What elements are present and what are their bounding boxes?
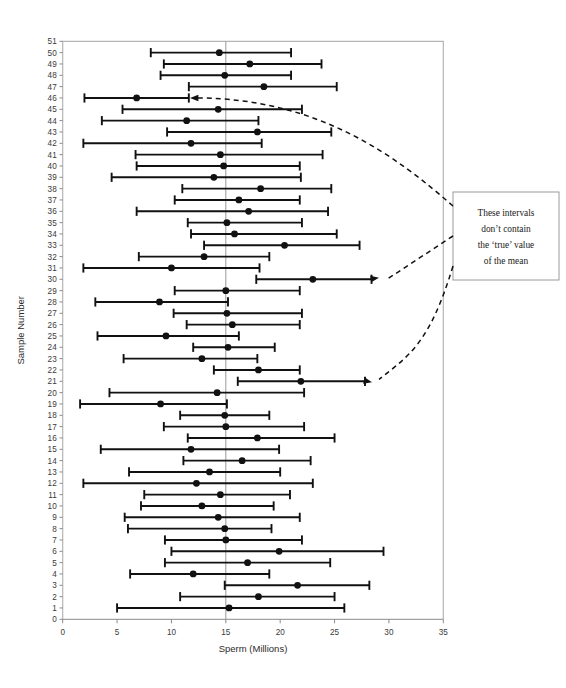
sample-mean-dot	[257, 185, 264, 192]
confidence-interval-row	[117, 603, 344, 612]
annotation-arrowhead	[190, 95, 198, 102]
y-tick-label-0: 0	[52, 615, 57, 624]
confidence-interval-row	[97, 331, 238, 340]
confidence-interval-row	[225, 581, 370, 590]
y-tick-label-47: 47	[48, 83, 58, 92]
y-tick-label-13: 13	[48, 468, 58, 477]
sample-mean-dot	[188, 446, 195, 453]
plot-frame	[63, 41, 444, 619]
sample-mean-dot	[239, 457, 246, 464]
sample-mean-dot	[244, 559, 251, 566]
annotation-box	[453, 192, 559, 280]
y-tick-label-19: 19	[48, 400, 58, 409]
y-tick-label-20: 20	[48, 389, 58, 398]
confidence-interval-row	[80, 399, 227, 408]
sample-mean-dot	[221, 525, 228, 532]
y-axis-title: Sample Number	[15, 296, 26, 365]
x-tick-label-0: 0	[60, 628, 65, 637]
chart-canvas: 0123456789101112131415161718192021222324…	[0, 0, 566, 688]
sample-mean-dot	[224, 310, 231, 317]
y-tick-label-34: 34	[48, 230, 58, 239]
y-tick-label-29: 29	[48, 287, 58, 296]
sample-mean-dot	[255, 367, 262, 374]
x-tick-label-25: 25	[330, 628, 340, 637]
y-tick-label-38: 38	[48, 185, 58, 194]
confidence-interval-row	[136, 150, 323, 159]
sample-mean-dot	[168, 265, 175, 272]
y-tick-label-49: 49	[48, 60, 58, 69]
y-tick-label-11: 11	[48, 491, 57, 500]
x-tick-label-30: 30	[384, 628, 394, 637]
confidence-interval-row	[161, 71, 291, 80]
y-tick-label-3: 3	[52, 581, 57, 590]
confidence-interval-row	[164, 59, 322, 68]
y-tick-label-30: 30	[48, 275, 58, 284]
confidence-interval-row	[101, 445, 279, 454]
confidence-interval-row	[128, 524, 272, 533]
y-tick-label-14: 14	[48, 457, 58, 466]
confidence-interval-row	[95, 297, 228, 306]
annotation-line-0: These intervals	[477, 208, 534, 218]
sample-mean-dot	[214, 389, 221, 396]
y-tick-label-4: 4	[52, 570, 57, 579]
sample-mean-dot	[215, 106, 222, 113]
y-tick-label-43: 43	[48, 128, 58, 137]
sample-mean-dot	[198, 355, 205, 362]
x-tick-label-10: 10	[167, 628, 177, 637]
y-tick-label-44: 44	[48, 117, 58, 126]
y-tick-label-23: 23	[48, 355, 58, 364]
confidence-interval-row	[174, 309, 302, 318]
sample-mean-dot	[224, 219, 231, 226]
confidence-interval-row	[180, 411, 269, 420]
confidence-interval-row	[83, 263, 259, 272]
confidence-interval-row	[109, 388, 304, 397]
y-tick-label-36: 36	[48, 207, 58, 216]
sample-mean-dot	[198, 503, 205, 510]
sample-mean-dot	[210, 174, 217, 181]
sample-mean-dot	[297, 378, 304, 385]
sample-mean-dot	[193, 480, 200, 487]
sample-mean-dot	[255, 593, 262, 600]
y-tick-label-32: 32	[48, 253, 58, 262]
sample-mean-dot	[217, 491, 224, 498]
y-tick-label-8: 8	[52, 525, 57, 534]
confidence-interval-row	[112, 173, 301, 182]
y-tick-label-2: 2	[52, 593, 57, 602]
y-tick-label-7: 7	[52, 536, 57, 545]
y-tick-label-48: 48	[48, 71, 58, 80]
confidence-interval-row	[164, 422, 304, 431]
confidence-interval-row	[141, 501, 274, 510]
sample-mean-dot	[133, 95, 140, 102]
y-tick-label-33: 33	[48, 241, 58, 250]
confidence-interval-row	[182, 184, 331, 193]
y-tick-label-18: 18	[48, 411, 58, 420]
y-tick-label-39: 39	[48, 173, 58, 182]
confidence-interval-row	[187, 320, 300, 329]
confidence-interval-row	[165, 535, 302, 544]
y-tick-label-9: 9	[52, 513, 57, 522]
confidence-interval-row	[83, 479, 312, 488]
confidence-interval-row	[188, 218, 302, 227]
sample-mean-dot	[221, 72, 228, 79]
y-tick-label-17: 17	[48, 423, 58, 432]
confidence-interval-row	[144, 490, 290, 499]
confidence-interval-row	[256, 275, 371, 284]
sample-mean-dot	[190, 571, 197, 578]
sample-mean-dot	[231, 231, 238, 238]
confidence-interval-row	[129, 467, 280, 476]
confidence-interval-row	[84, 93, 188, 102]
y-tick-label-37: 37	[48, 196, 58, 205]
y-tick-label-35: 35	[48, 219, 58, 228]
sample-mean-dot	[226, 605, 233, 612]
sample-mean-dot	[206, 469, 213, 476]
confidence-interval-row	[151, 48, 291, 57]
y-tick-label-6: 6	[52, 547, 57, 556]
confidence-interval-row	[175, 195, 300, 204]
x-tick-label-35: 35	[439, 628, 449, 637]
sample-mean-dot	[222, 423, 229, 430]
y-tick-label-51: 51	[48, 37, 58, 46]
y-tick-label-21: 21	[48, 377, 58, 386]
annotation-line-2: the ‘true’ value	[478, 240, 535, 250]
sample-mean-dot	[276, 548, 283, 555]
confidence-interval-row	[167, 127, 331, 136]
